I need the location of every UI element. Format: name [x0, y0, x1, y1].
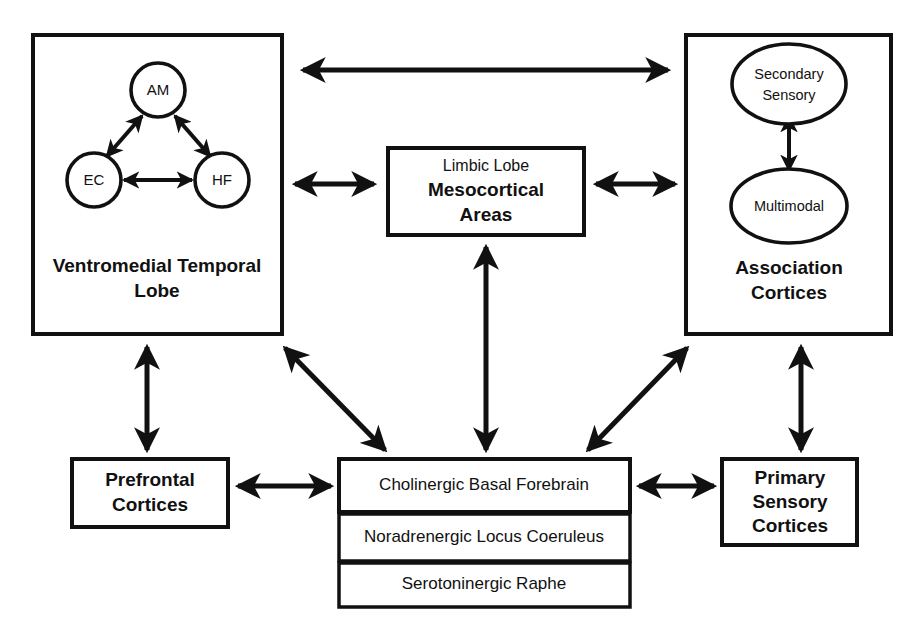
cholinergic-basal-forebrain-label: Cholinergic Basal Forebrain: [379, 475, 589, 494]
diagram-canvas: AM EC HF Ventromedial Temporal Lobe Limb…: [0, 0, 916, 635]
box-association-cortices[interactable]: Secondary Sensory Multimodal Association…: [686, 35, 891, 334]
node-hf[interactable]: HF: [195, 153, 249, 207]
mesocortical-subtitle: Limbic Lobe: [443, 157, 529, 174]
primary-sensory-title-line3: Cortices: [752, 515, 828, 536]
node-am[interactable]: AM: [131, 63, 185, 117]
node-hf-label: HF: [212, 171, 232, 188]
stack-row-noradrenergic-locus-coeruleus[interactable]: Noradrenergic Locus Coeruleus: [339, 514, 630, 561]
node-secondary-sensory[interactable]: Secondary Sensory: [732, 44, 846, 124]
primary-sensory-title-line1: Primary: [755, 467, 826, 488]
serotoninergic-raphe-label: Serotoninergic Raphe: [402, 574, 566, 593]
node-ec-label: EC: [84, 171, 105, 188]
box-primary-sensory-cortices[interactable]: Primary Sensory Cortices: [722, 459, 857, 545]
diagram-svg: AM EC HF Ventromedial Temporal Lobe Limb…: [0, 0, 916, 635]
association-title-line2: Cortices: [751, 282, 827, 303]
vmtl-title-line1: Ventromedial Temporal: [53, 255, 262, 276]
stack-row-cholinergic-basal-forebrain[interactable]: Cholinergic Basal Forebrain: [339, 459, 630, 512]
vmtl-title-line2: Lobe: [134, 280, 179, 301]
mesocortical-title-line1: Mesocortical: [428, 179, 544, 200]
connector-vmtl-cholinergic: [285, 348, 385, 450]
secondary-sensory-label-line1: Secondary: [754, 66, 824, 82]
primary-sensory-title-line2: Sensory: [753, 491, 828, 512]
node-ec[interactable]: EC: [67, 153, 121, 207]
node-am-label: AM: [147, 81, 170, 98]
association-title-line1: Association: [735, 257, 843, 278]
multimodal-label: Multimodal: [754, 198, 824, 214]
prefrontal-title-line1: Prefrontal: [105, 469, 195, 490]
node-multimodal[interactable]: Multimodal: [731, 169, 847, 243]
stack-neuromodulatory-nuclei: Cholinergic Basal Forebrain Noradrenergi…: [339, 459, 630, 607]
mesocortical-title-line2: Areas: [460, 204, 513, 225]
prefrontal-title-line2: Cortices: [112, 494, 188, 515]
box-prefrontal-cortices[interactable]: Prefrontal Cortices: [72, 459, 228, 527]
secondary-sensory-label-line2: Sensory: [762, 87, 816, 103]
box-ventromedial-temporal-lobe[interactable]: AM EC HF Ventromedial Temporal Lobe: [33, 35, 282, 334]
connector-association-cholinergic: [588, 348, 687, 450]
stack-row-serotoninergic-raphe[interactable]: Serotoninergic Raphe: [339, 563, 630, 607]
noradrenergic-locus-coeruleus-label: Noradrenergic Locus Coeruleus: [364, 527, 604, 546]
box-mesocortical-areas[interactable]: Limbic Lobe Mesocortical Areas: [388, 148, 584, 235]
